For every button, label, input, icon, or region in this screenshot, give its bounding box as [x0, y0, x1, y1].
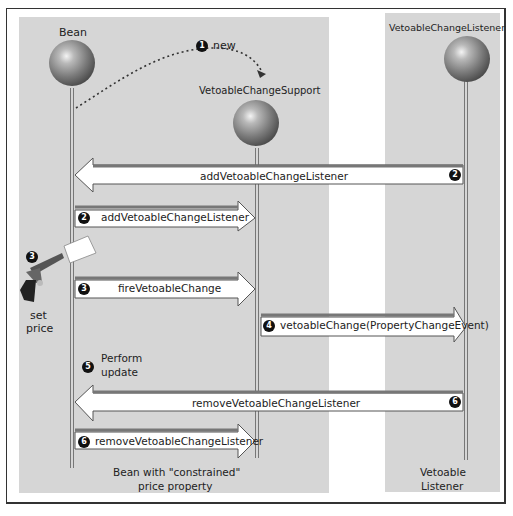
step-3-label: fireVetoableChange	[118, 282, 221, 294]
bean-footer-line1: Bean with "constrained"	[113, 466, 240, 478]
step-1-label: new	[213, 39, 236, 52]
step-2-listener-label: addVetoableChangeListener	[200, 170, 348, 182]
step-6-bean-label: removeVetoableChangeListener	[95, 435, 263, 447]
step-1-badge: 1	[196, 40, 208, 52]
step-5-badge: 5	[82, 361, 94, 373]
step-6-listener-label: removeVetoableChangeListener	[192, 397, 360, 409]
step-2-bean-label: addVetoableChangeListener	[101, 211, 249, 223]
listener-footer-line2: Listener	[421, 480, 463, 492]
step-2-listener-badge: 2	[449, 169, 461, 181]
bean-footer-line2: price property	[138, 480, 212, 492]
step-6-bean-badge: 6	[78, 436, 90, 448]
step-6-listener-badge: 6	[449, 396, 461, 408]
trigger-badge: 3	[26, 251, 38, 263]
step-5-label-line1: Perform	[101, 352, 142, 364]
step-2-bean-badge: 2	[78, 212, 90, 224]
new-dotted-arrow	[76, 48, 262, 108]
trigger-label-line1: set	[30, 309, 47, 322]
listener-footer-line1: Vetoable	[420, 466, 466, 478]
trigger-label-line2: price	[26, 322, 53, 335]
new-arrowhead	[257, 70, 266, 78]
step-4-badge: 4	[263, 320, 275, 332]
step-5-label-line2: update	[101, 366, 138, 378]
step-4-label: vetoableChange(PropertyChangeEvent)	[280, 319, 489, 331]
step-3-badge: 3	[78, 283, 90, 295]
